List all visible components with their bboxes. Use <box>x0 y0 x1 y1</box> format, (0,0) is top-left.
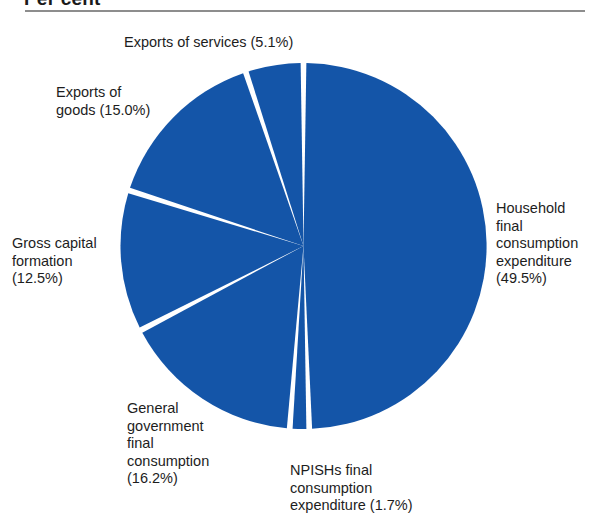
slice-label-exports-of-goods: Exports of goods (15.0%) <box>56 84 150 119</box>
slice-label-general-government: General government final consumption (16… <box>127 400 209 488</box>
slice-label-household-final-consumption: Household final consumption expenditure … <box>496 200 578 288</box>
slice-label-exports-of-services: Exports of services (5.1%) <box>124 34 293 52</box>
chart-page: Per cent Exports of services (5.1%) Expo… <box>0 0 595 531</box>
pie-slice-household[interactable] <box>304 63 487 429</box>
pie-slice-group <box>121 63 487 429</box>
slice-label-gross-capital-formation: Gross capital formation (12.5%) <box>12 235 97 288</box>
slice-label-npishs-final-consumption: NPISHs final consumption expenditure (1.… <box>290 462 413 515</box>
